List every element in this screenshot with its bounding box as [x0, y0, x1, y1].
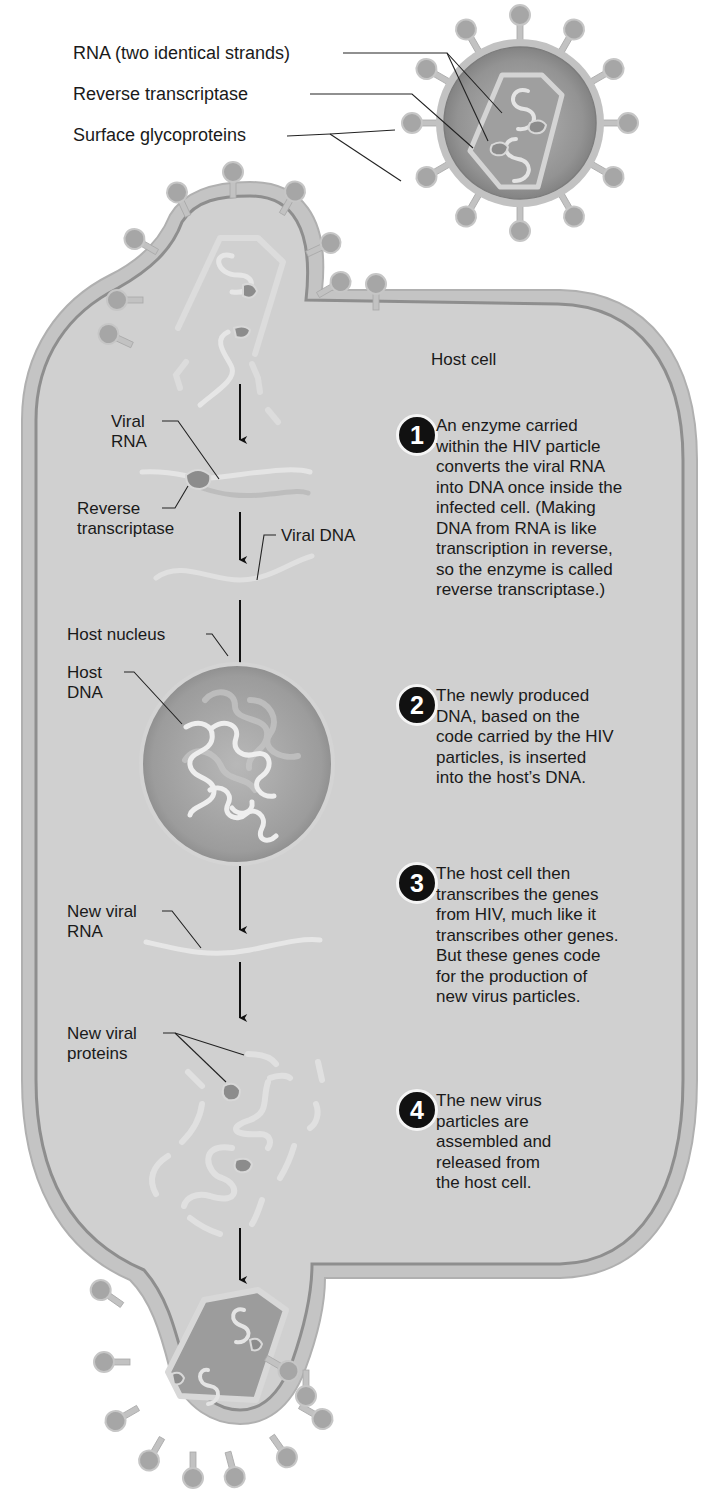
step-description: The newly produced DNA, based on the cod… [436, 686, 696, 789]
label-host-dna: Host DNA [67, 663, 103, 703]
label-reverse-transcriptase: Reverse transcriptase [77, 499, 174, 539]
label-viral-dna: Viral DNA [281, 526, 355, 546]
label-host-cell: Host cell [431, 350, 496, 370]
label-new-viral-proteins: New viral proteins [67, 1024, 137, 1064]
label-new-viral-rna: New viral RNA [67, 902, 137, 942]
step-number-badge: 2 [396, 684, 438, 726]
label-surface-glycoproteins: Surface glycoproteins [73, 124, 246, 146]
label-reverse-transcriptase-virion: Reverse transcriptase [73, 83, 248, 105]
step-number-badge: 1 [396, 414, 438, 456]
host-cell [22, 182, 697, 1424]
step-description: An enzyme carried within the HIV particl… [436, 416, 696, 601]
step-description: The new virus particles are assembled an… [436, 1091, 696, 1194]
host-nucleus [141, 664, 333, 864]
label-rna-two-strands: RNA (two identical strands) [73, 42, 290, 64]
step-description: The host cell then transcribes the genes… [436, 864, 696, 1008]
label-viral-rna: Viral RNA [111, 412, 147, 452]
hiv-replication-diagram: RNA (two identical strands) Reverse tran… [0, 0, 726, 1494]
label-host-nucleus: Host nucleus [67, 625, 165, 645]
hiv-virion [402, 5, 638, 241]
step-number-badge: 3 [396, 862, 438, 904]
step-number-badge: 4 [396, 1089, 438, 1131]
